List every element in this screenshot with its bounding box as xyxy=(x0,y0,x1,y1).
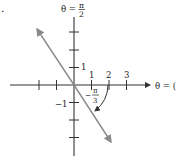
svg-text:π: π xyxy=(93,87,98,95)
part-label: . xyxy=(1,2,5,15)
horizontal-axis-label: θ = ( xyxy=(155,81,176,91)
svg-text:−: − xyxy=(85,91,91,100)
y-tick-label-1: 1 xyxy=(81,62,86,72)
polar-line-extension xyxy=(37,29,74,85)
svg-text:θ =: θ = xyxy=(61,4,76,14)
y-tick-label-neg1: −1 xyxy=(55,99,68,109)
x-tick-label-2: 2 xyxy=(106,70,111,80)
polar-diagram: . θ = π 2 θ = ( 1 2 3 1 −1 − xyxy=(0,0,176,161)
x-tick-label-3: 3 xyxy=(124,70,129,80)
svg-text:3: 3 xyxy=(93,97,97,105)
svg-text:π: π xyxy=(79,1,84,10)
svg-text:2: 2 xyxy=(79,10,84,19)
x-tick-label-1: 1 xyxy=(89,70,94,80)
vertical-axis-label: θ = π 2 xyxy=(61,1,85,19)
